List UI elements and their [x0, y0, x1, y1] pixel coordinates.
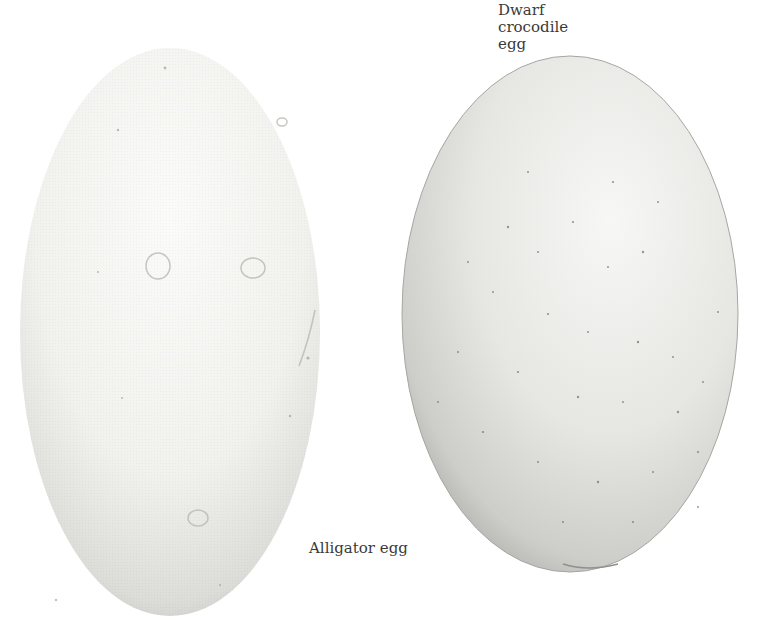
dwarf-crocodile-egg-label: Dwarf crocodile egg [498, 2, 578, 53]
dwarf-label-line-2: crocodile [498, 19, 578, 36]
egg-photo: Dwarf crocodile egg Alligator egg [0, 0, 775, 627]
alligator-egg [10, 40, 330, 625]
alligator-egg-label: Alligator egg [309, 540, 408, 557]
dwarf-label-line-1: Dwarf [498, 2, 578, 19]
dwarf-crocodile-egg [398, 52, 748, 582]
dwarf-label-line-3: egg [498, 36, 578, 53]
